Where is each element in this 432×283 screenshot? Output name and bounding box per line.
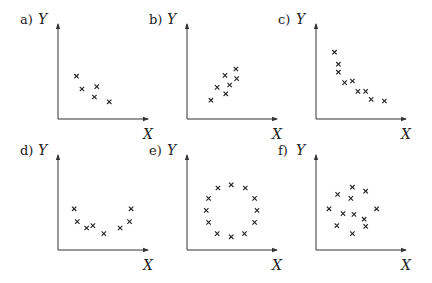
data-point — [91, 223, 95, 227]
data-point — [102, 231, 106, 235]
data-point — [204, 208, 208, 212]
panel-label: c) — [278, 12, 290, 27]
data-point — [206, 196, 210, 200]
data-point — [349, 196, 353, 200]
data-point — [363, 189, 367, 193]
x-axis-label: X — [271, 126, 283, 142]
panel-label: b) — [149, 12, 162, 27]
data-point — [335, 223, 339, 227]
data-point — [336, 70, 340, 74]
data-point — [352, 212, 356, 216]
y-axis-label: Y — [167, 11, 178, 27]
data-point — [95, 84, 99, 88]
panel-label: f) — [278, 143, 288, 158]
scatter-panel-c: c)YX — [278, 11, 412, 142]
data-point — [242, 231, 246, 235]
scatter-figure: a)YXb)YXc)YXd)YXe)YXf)YX — [0, 0, 432, 283]
scatter-panel-f: f)YX — [278, 142, 412, 273]
data-point — [227, 83, 231, 87]
data-point — [75, 219, 79, 223]
data-point — [72, 207, 76, 211]
data-point — [74, 74, 78, 78]
scatter-panel-e: e)YX — [149, 142, 283, 273]
x-axis-label: X — [400, 126, 412, 142]
y-axis-label: Y — [38, 142, 49, 158]
data-point — [229, 235, 233, 239]
y-axis-label: Y — [296, 142, 307, 158]
data-point — [234, 76, 238, 80]
data-point — [107, 100, 111, 104]
data-point — [369, 97, 373, 101]
data-point — [362, 217, 366, 221]
data-point — [243, 186, 247, 190]
data-point — [356, 89, 360, 93]
data-point — [224, 92, 228, 96]
data-point — [252, 220, 256, 224]
data-point — [84, 226, 88, 230]
data-point — [216, 186, 220, 190]
panel-label: d) — [20, 143, 33, 158]
panel-label: e) — [149, 143, 162, 158]
data-point — [350, 185, 354, 189]
y-axis-label: Y — [38, 11, 49, 27]
data-point — [80, 87, 84, 91]
data-point — [215, 231, 219, 235]
data-point — [209, 98, 213, 102]
data-point — [341, 211, 345, 215]
x-axis-label: X — [142, 126, 154, 142]
scatter-panel-a: a)YX — [20, 11, 154, 142]
data-point — [363, 89, 367, 93]
data-point — [327, 207, 331, 211]
data-point — [363, 224, 367, 228]
y-axis-label: Y — [296, 11, 307, 27]
data-point — [342, 80, 346, 84]
data-point — [127, 219, 131, 223]
data-point — [215, 85, 219, 89]
data-point — [129, 207, 133, 211]
data-point — [252, 196, 256, 200]
x-axis-label: X — [400, 257, 412, 273]
y-axis-label: Y — [167, 142, 178, 158]
data-point — [229, 183, 233, 187]
data-point — [118, 226, 122, 230]
data-point — [336, 62, 340, 66]
x-axis-label: X — [142, 257, 154, 273]
data-point — [92, 95, 96, 99]
scatter-panel-b: b)YX — [149, 11, 283, 142]
data-point — [374, 207, 378, 211]
data-point — [234, 67, 238, 71]
data-point — [335, 192, 339, 196]
data-point — [223, 73, 227, 77]
data-point — [350, 79, 354, 83]
data-point — [332, 50, 336, 54]
data-point — [206, 220, 210, 224]
panel-label: a) — [20, 12, 33, 27]
data-point — [382, 99, 386, 103]
scatter-panel-d: d)YX — [20, 142, 154, 273]
data-point — [255, 208, 259, 212]
x-axis-label: X — [271, 257, 283, 273]
data-point — [350, 231, 354, 235]
